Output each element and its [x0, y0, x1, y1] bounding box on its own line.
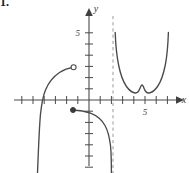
coordinate-graph: x y 5 5 — [0, 0, 189, 173]
open-circle-endpoint — [71, 65, 76, 70]
curve-middle-branch — [73, 110, 111, 173]
x-axis-tick-label-5: 5 — [143, 107, 148, 117]
y-axis-tick-label-5: 5 — [76, 28, 81, 38]
x-axis-label: x — [181, 94, 187, 105]
graph-figure: 1. — [0, 0, 189, 173]
y-axis-label: y — [93, 3, 99, 14]
curve-left-branch — [38, 67, 74, 173]
filled-dot-endpoint — [71, 108, 76, 113]
curve-right-branch — [115, 33, 168, 94]
y-axis-arrowhead — [85, 8, 93, 16]
axis-group — [14, 8, 184, 167]
